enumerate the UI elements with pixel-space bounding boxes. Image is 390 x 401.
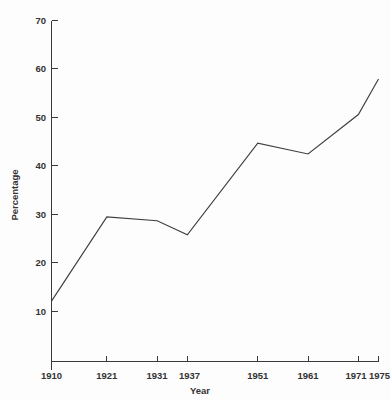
y-tick-label-40: 40: [35, 160, 46, 171]
x-tick-label-1937: 1937: [179, 370, 200, 381]
x-tick-label-1975: 1975: [369, 370, 390, 381]
y-axis-tick-labels: 70 60 50 40 30 20 10: [35, 15, 46, 317]
y-axis-title: Percentage: [9, 169, 20, 220]
y-tick-label-60: 60: [35, 63, 46, 74]
x-tick-label-1931: 1931: [147, 370, 169, 381]
x-tick-label-1951: 1951: [247, 370, 269, 381]
x-tick-label-1921: 1921: [96, 370, 118, 381]
y-tick-label-50: 50: [35, 112, 46, 123]
x-tick-label-1910: 1910: [41, 370, 62, 381]
y-tick-label-20: 20: [35, 257, 46, 268]
x-axis-title: Year: [190, 385, 210, 396]
chart-page: 70 60 50 40 30 20 10 1910 1921 1931 1937…: [0, 0, 390, 401]
data-series-percentage: [52, 79, 379, 301]
x-axis-ticks: [52, 356, 379, 362]
line-chart: 70 60 50 40 30 20 10 1910 1921 1931 1937…: [0, 0, 390, 401]
y-tick-label-30: 30: [35, 209, 46, 220]
x-axis-tick-labels: 1910 1921 1931 1937 1951 1961 1971 1975: [41, 370, 390, 381]
x-tick-label-1961: 1961: [297, 370, 319, 381]
x-tick-label-1971: 1971: [345, 370, 367, 381]
y-tick-label-70: 70: [35, 15, 46, 26]
y-tick-label-10: 10: [35, 306, 46, 317]
y-axis-ticks: [52, 21, 58, 312]
